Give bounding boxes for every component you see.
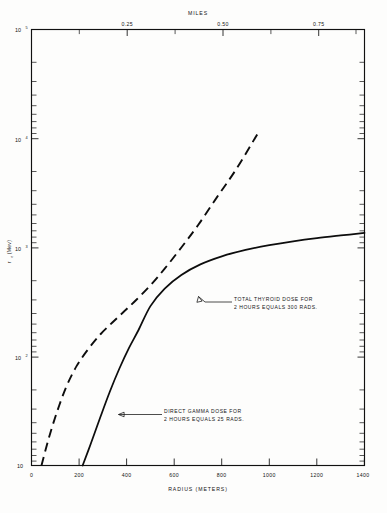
svg-text:10: 10 [17, 463, 23, 469]
x-tick-label: 1400 [357, 472, 370, 478]
svg-text:10: 10 [15, 137, 21, 143]
annotation-line-2: 2 HOURS EQUALS 300 RADS. [234, 304, 318, 310]
svg-text:10: 10 [15, 246, 21, 252]
svg-text:r: r [6, 261, 12, 263]
x-tick-label: 200 [74, 472, 84, 478]
annotation-line-1: TOTAL THYROID DOSE FOR [234, 296, 313, 302]
x-tick-label: 0 [30, 472, 33, 478]
svg-text:3: 3 [26, 244, 28, 249]
x-tick-label: 600 [169, 472, 179, 478]
top-tick-label: 0.25 [121, 21, 133, 27]
top-tick-label: 0.75 [313, 21, 325, 27]
y-decade-label-10: 10 [17, 463, 23, 469]
figure-background [0, 0, 387, 513]
annotation-line-2: 2 HOURS EQUALS 25 RADS. [164, 416, 244, 422]
svg-text:(Mev): (Mev) [6, 240, 12, 254]
figure-container: MILES 0.25 0.50 0.75 [0, 0, 387, 513]
svg-text:o: o [10, 256, 14, 258]
svg-text:10: 10 [15, 27, 21, 33]
x-tick-label: 400 [122, 472, 132, 478]
top-axis-title: MILES [188, 10, 208, 16]
annotation-line-1: DIRECT GAMMA DOSE FOR [164, 408, 242, 414]
svg-text:2: 2 [26, 353, 28, 358]
svg-text:5: 5 [26, 25, 28, 30]
top-tick-label: 0.50 [217, 21, 229, 27]
x-axis-title: RADIUS (METERS) [168, 486, 228, 492]
x-tick-label: 1000 [263, 472, 276, 478]
svg-text:10: 10 [15, 355, 21, 361]
log-linear-dose-vs-radius-chart: MILES 0.25 0.50 0.75 [0, 0, 387, 513]
x-tick-label: 800 [217, 472, 227, 478]
x-tick-label: 1200 [310, 472, 323, 478]
